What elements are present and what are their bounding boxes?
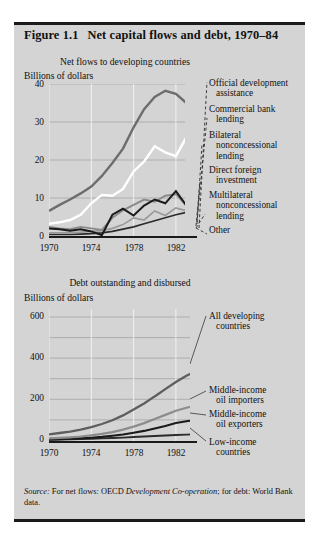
bottom-ytick-400: 400 — [22, 352, 44, 362]
legend-line-3: lending — [209, 211, 313, 221]
bottom-xtick-1974: 1974 — [74, 448, 108, 458]
figure-title-text: Net capital flows and debt, 1970–84 — [87, 28, 278, 42]
bottom-ytick-200: 200 — [22, 393, 44, 403]
source-italic-title: Development Co-operation — [126, 487, 217, 496]
top-legend-item-direct-foreign-investment: Direct foreign investment — [209, 165, 313, 186]
bottom-chart-svg — [49, 309, 197, 441]
top-chart-leader-svg — [185, 78, 211, 238]
bottom-legend-item-all-developing-countries: All developing countries — [209, 311, 313, 332]
bottom-chart-x-axis-line — [49, 441, 197, 443]
leader-middle-income-oil-importers — [190, 391, 206, 399]
top-chart-title: Net flows to developing countries — [40, 56, 210, 67]
top-ytick-20: 20 — [22, 155, 44, 165]
legend-line-2: countries — [209, 321, 313, 331]
bottom-legend-item-middle-income-oil-importers: Middle-income oil importers — [209, 385, 313, 406]
legend-line-1: Middle-income — [209, 385, 313, 395]
legend-line-2: countries — [209, 447, 313, 457]
legend-line-2: nonconcessional — [209, 200, 313, 210]
leader-low-income-countries — [190, 428, 206, 441]
top-legend-item-bilateral-nonconcessional-lending: Bilateral nonconcessional lending — [209, 130, 313, 161]
bottom-xtick-1978: 1978 — [117, 448, 151, 458]
legend-line-1: All developing — [209, 311, 313, 321]
figure-title: Figure 1.1Net capital flows and debt, 19… — [24, 28, 299, 43]
top-legend-item-other: Other — [209, 225, 313, 235]
legend-line-2: nonconcessional — [209, 140, 313, 150]
source-note: Source: For net flows: OECD Development … — [24, 487, 296, 508]
top-chart-x-axis-line — [49, 236, 197, 238]
leader-direct-foreign-investment — [196, 182, 200, 226]
figure-page: Figure 1.1Net capital flows and debt, 19… — [0, 0, 319, 539]
top-xtick-1970: 1970 — [32, 243, 66, 253]
top-legend-item-commercial-bank-lending: Commercial bank lending — [209, 104, 313, 125]
top-xtick-1974: 1974 — [74, 243, 108, 253]
legend-line-1: Commercial bank — [209, 104, 313, 114]
top-ytick-30: 30 — [22, 117, 44, 127]
series-middle-income-oil-importers — [49, 405, 197, 438]
bottom-chart-gridlines-horizontal — [49, 317, 197, 420]
legend-line-1: Multilateral — [209, 190, 313, 200]
figure-number: Figure 1.1 — [24, 28, 78, 42]
top-xtick-1978: 1978 — [117, 243, 151, 253]
top-ytick-10: 10 — [22, 193, 44, 203]
legend-line-2: oil exporters — [209, 419, 313, 429]
top-chart-svg — [49, 84, 197, 236]
top-ytick-0: 0 — [22, 231, 44, 241]
source-text-1: For net flows: OECD — [52, 487, 126, 496]
series-official-development-assistance — [49, 108, 197, 224]
legend-line-2: oil importers — [209, 395, 313, 405]
legend-line-3: lending — [209, 151, 313, 161]
legend-line-1: Low-income — [209, 437, 313, 447]
bottom-chart-plot — [49, 309, 197, 441]
legend-line-2: assistance — [209, 88, 313, 98]
figure-bottom-rule — [14, 519, 305, 522]
top-legend-item-multilateral-nonconcessional-lending: Multilateral nonconcessional lending — [209, 190, 313, 221]
bottom-ytick-0: 0 — [22, 434, 44, 444]
top-legend-item-official-development-assistance: Official development assistance — [209, 78, 313, 99]
top-xtick-1982: 1982 — [159, 243, 193, 253]
legend-line-2: investment — [209, 175, 313, 185]
legend-line-1: Middle-income — [209, 409, 313, 419]
top-chart-gridlines-horizontal — [49, 84, 197, 198]
legend-line-1: Direct foreign — [209, 165, 313, 175]
bottom-legend-item-middle-income-oil-exporters: Middle-income oil exporters — [209, 409, 313, 430]
legend-line-1: Bilateral — [209, 130, 313, 140]
leader-middle-income-oil-exporters — [190, 413, 206, 415]
legend-line-1: Official development — [209, 78, 313, 88]
bottom-xtick-1970: 1970 — [32, 448, 66, 458]
legend-line-2: lending — [209, 114, 313, 124]
series-all-developing-countries — [49, 371, 197, 435]
leader-all-developing-countries — [190, 316, 206, 364]
leader-other — [196, 228, 207, 234]
top-chart-plot — [49, 84, 197, 236]
legend-line-1: Other — [209, 225, 313, 235]
top-chart-leader-lines — [185, 78, 211, 238]
bottom-chart-title: Debt outstanding and disbursed — [40, 277, 220, 288]
bottom-chart-y-axis-label: Billions of dollars — [24, 292, 93, 303]
figure-top-rule — [14, 22, 305, 25]
top-ytick-40: 40 — [22, 79, 44, 89]
bottom-xtick-1982: 1982 — [159, 448, 193, 458]
source-label: Source: — [24, 487, 50, 496]
bottom-legend-item-low-income-countries: Low-income countries — [209, 437, 313, 458]
bottom-ytick-600: 600 — [22, 311, 44, 321]
